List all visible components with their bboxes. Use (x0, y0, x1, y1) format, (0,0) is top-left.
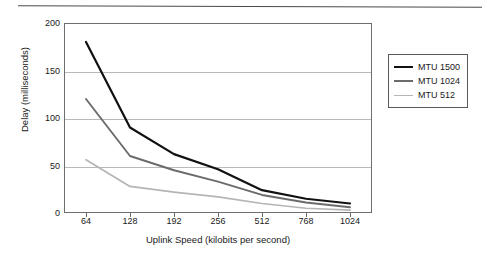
y-axis-title: Delay (milliseconds) (19, 30, 30, 150)
chart-figure: 050100150200 641281922565127681024 Delay… (0, 0, 493, 271)
x-tick-label-512: 512 (254, 216, 269, 226)
series-lines (64, 23, 372, 213)
x-tick-label-128: 128 (122, 216, 137, 226)
legend-swatch-icon (394, 80, 413, 82)
legend-label: MTU 512 (418, 90, 455, 100)
legend-item-mtu-1500[interactable]: MTU 1500 (394, 60, 460, 74)
x-tick-label-192: 192 (166, 216, 181, 226)
x-tick-label-64: 64 (81, 216, 91, 226)
chart-legend: MTU 1500MTU 1024MTU 512 (388, 54, 468, 108)
page-top-rule (18, 5, 482, 7)
series-line-mtu-1024 (86, 99, 350, 207)
legend-label: MTU 1500 (418, 62, 460, 72)
y-tick-label-100: 100 (45, 113, 60, 123)
legend-swatch-icon (394, 95, 413, 96)
y-tick-label-50: 50 (50, 161, 60, 171)
legend-item-mtu-1024[interactable]: MTU 1024 (394, 74, 460, 88)
y-tick-label-150: 150 (45, 66, 60, 76)
legend-swatch-icon (394, 66, 413, 68)
legend-item-mtu-512[interactable]: MTU 512 (394, 88, 460, 102)
x-tick-label-768: 768 (298, 216, 313, 226)
x-axis-tick-labels: 641281922565127681024 (64, 216, 372, 230)
y-tick-label-0: 0 (55, 208, 60, 218)
y-tick-label-200: 200 (45, 18, 60, 28)
x-tick-label-1024: 1024 (340, 216, 360, 226)
series-line-mtu-1500 (86, 42, 350, 204)
x-tick-label-256: 256 (210, 216, 225, 226)
legend-label: MTU 1024 (418, 76, 460, 86)
x-axis-title: Uplink Speed (kilobits per second) (64, 234, 372, 245)
